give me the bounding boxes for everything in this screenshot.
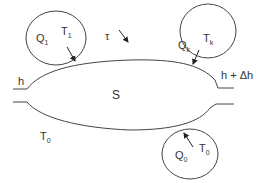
heat-arrow-k-icon <box>193 50 199 64</box>
reservoir-1-heat-label: Q1 <box>36 33 48 46</box>
diagram-canvas <box>0 0 263 183</box>
system-bottom-boundary <box>13 102 234 130</box>
system-top-boundary <box>13 60 234 89</box>
reservoir-0-temp-label: T0 <box>199 143 210 156</box>
tau-label: τ <box>105 31 109 42</box>
system-label: S <box>112 89 120 101</box>
heat-arrow-0-icon <box>184 133 193 147</box>
reservoir-k-heat-label: Qk <box>178 40 190 53</box>
reservoir-k-temp-label: Tk <box>203 33 213 46</box>
outlet-enthalpy-label: h + Δh <box>221 70 253 81</box>
reservoir-0-heat-label: Q0 <box>175 150 187 163</box>
reservoir-1-temp-label: T1 <box>61 26 72 39</box>
reservoir-1-circle <box>26 11 86 65</box>
work-arrow-icon <box>119 30 128 42</box>
inlet-enthalpy-label: h <box>18 76 24 87</box>
ambient-temp-label: T0 <box>40 131 51 144</box>
heat-arrow-1-icon <box>67 47 75 61</box>
